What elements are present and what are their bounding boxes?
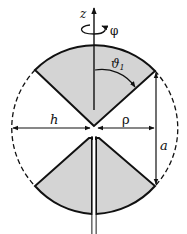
- h-label: h: [50, 112, 58, 127]
- lower-cone-left: [35, 138, 92, 214]
- sphere-boundary-right: [155, 71, 178, 186]
- feed-line: [92, 136, 96, 234]
- phi-label: φ: [110, 24, 118, 38]
- a-label: a: [160, 138, 168, 153]
- rho-label: ρ: [122, 112, 130, 127]
- diagram-canvas: z φ ϑ1 h ρ a: [0, 0, 187, 234]
- lower-cone-right: [96, 138, 155, 214]
- biconical-antenna-diagram: z φ ϑ1 h ρ a: [0, 0, 187, 234]
- z-axis-label: z: [79, 7, 87, 21]
